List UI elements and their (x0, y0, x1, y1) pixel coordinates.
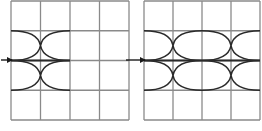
figure-canvas (0, 0, 262, 131)
right-arrowhead-icon (140, 57, 146, 63)
left-arrowhead-icon (7, 57, 13, 63)
grid-diagram-pair (0, 0, 262, 131)
